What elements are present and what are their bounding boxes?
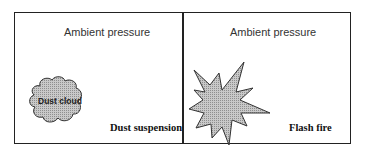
left-panel-title: Ambient pressure xyxy=(64,26,150,38)
flash-fire-starburst-icon xyxy=(189,62,270,145)
left-panel-caption: Dust suspension xyxy=(110,122,182,133)
right-panel-title: Ambient pressure xyxy=(230,26,316,38)
right-panel-caption: Flash fire xyxy=(289,122,332,133)
dust-cloud-label: Dust cloud xyxy=(38,96,82,106)
